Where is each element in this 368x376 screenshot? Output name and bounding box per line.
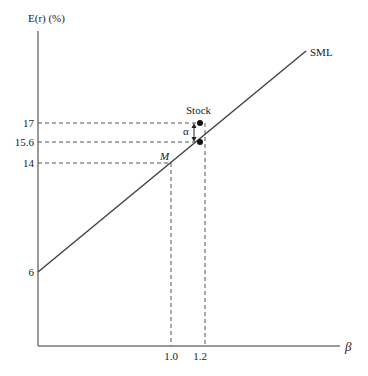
stock-point xyxy=(197,120,203,126)
x-tick-1-0: 1.0 xyxy=(164,350,178,362)
y-tick-6: 6 xyxy=(29,266,35,278)
y-tick-14: 14 xyxy=(23,157,35,169)
alpha-arrow-head-up xyxy=(192,123,197,128)
x-axis-label: β xyxy=(344,339,352,354)
sml-line xyxy=(38,51,306,272)
sml-diagram: E(r) (%) β SML M Stock α 17 15.6 14 6 1.… xyxy=(0,0,368,376)
y-tick-17: 17 xyxy=(23,117,35,129)
sml-point-beta-1-2 xyxy=(197,139,203,145)
stock-label: Stock xyxy=(186,104,212,116)
sml-label: SML xyxy=(310,46,333,58)
x-tick-1-2: 1.2 xyxy=(193,350,207,362)
alpha-label: α xyxy=(183,125,189,137)
y-axis-label: E(r) (%) xyxy=(28,12,65,25)
market-label: M xyxy=(159,150,170,162)
y-tick-15-6: 15.6 xyxy=(15,136,35,148)
